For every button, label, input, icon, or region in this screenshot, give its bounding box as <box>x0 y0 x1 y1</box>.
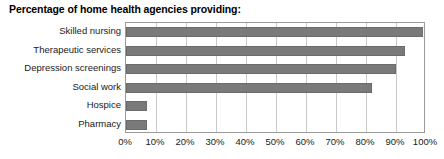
x-tick-label: 60% <box>295 136 314 148</box>
bar-row <box>126 46 405 56</box>
bar-row <box>126 120 147 130</box>
x-tick-label: 40% <box>235 136 254 148</box>
plot-area <box>125 22 425 133</box>
bar-row <box>126 83 372 93</box>
category-label: Hospice <box>1 100 121 110</box>
x-tick-label: 0% <box>118 136 132 148</box>
bar <box>126 120 147 130</box>
category-label: Depression screenings <box>1 63 121 73</box>
category-label: Therapeutic services <box>1 45 121 55</box>
bar <box>126 64 396 74</box>
plot-wrapper <box>125 22 425 133</box>
x-tick-label: 70% <box>325 136 344 148</box>
x-tick-label: 10% <box>145 136 164 148</box>
x-tick-label: 20% <box>175 136 194 148</box>
bar-chart-figure: Percentage of home health agencies provi… <box>0 0 444 159</box>
bar-row <box>126 64 396 74</box>
category-label: Pharmacy <box>1 119 121 129</box>
x-tick-label: 80% <box>355 136 374 148</box>
bar <box>126 46 405 56</box>
bar <box>126 27 423 37</box>
x-tick-label: 90% <box>385 136 404 148</box>
bar-row <box>126 27 423 37</box>
bar <box>126 83 372 93</box>
category-label: Skilled nursing <box>1 26 121 36</box>
bar-row <box>126 101 147 111</box>
x-tick-label: 50% <box>265 136 284 148</box>
bar <box>126 101 147 111</box>
x-tick-label: 30% <box>205 136 224 148</box>
chart-title: Percentage of home health agencies provi… <box>9 3 241 15</box>
category-label: Social work <box>1 82 121 92</box>
bars-layer <box>126 23 424 132</box>
x-tick-label: 100% <box>413 136 437 148</box>
value-axis-labels: 0%10%20%30%40%50%60%70%80%90%100% <box>0 136 444 150</box>
category-axis-labels: Skilled nursingTherapeutic servicesDepre… <box>0 22 121 133</box>
